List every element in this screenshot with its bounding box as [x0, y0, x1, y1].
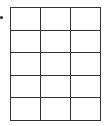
table-cell[interactable] — [71, 30, 101, 53]
table-cell[interactable] — [41, 98, 71, 121]
table-cell[interactable] — [41, 53, 71, 76]
table-row — [11, 75, 101, 98]
table-row — [11, 98, 101, 121]
table-cell[interactable] — [41, 30, 71, 53]
table-cell[interactable] — [41, 75, 71, 98]
table-cell[interactable] — [71, 75, 101, 98]
table-row — [11, 30, 101, 53]
table-cell[interactable] — [11, 53, 41, 76]
table-cell[interactable] — [11, 8, 41, 31]
table-cell[interactable] — [71, 98, 101, 121]
empty-grid-table — [10, 7, 101, 121]
table-cell[interactable] — [11, 98, 41, 121]
table-cell[interactable] — [41, 8, 71, 31]
table-cell[interactable] — [71, 8, 101, 31]
table-row — [11, 8, 101, 31]
table-cell[interactable] — [11, 30, 41, 53]
table-cell[interactable] — [11, 75, 41, 98]
table-cell[interactable] — [71, 53, 101, 76]
bullet-dot-icon — [0, 16, 3, 19]
table-row — [11, 53, 101, 76]
